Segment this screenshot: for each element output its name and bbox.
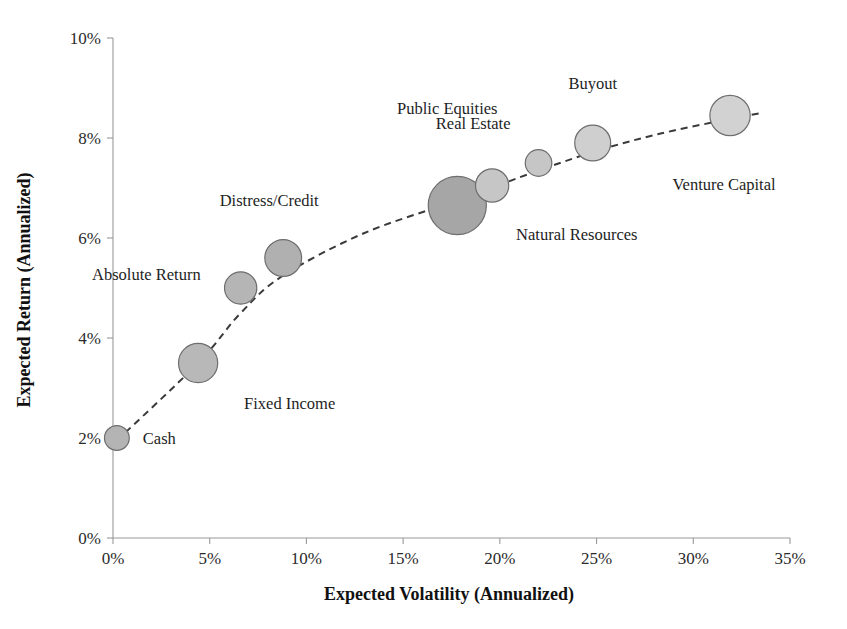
bubble-natural-resources[interactable] bbox=[475, 169, 508, 202]
x-tick-label: 15% bbox=[388, 549, 419, 568]
y-tick-label: 8% bbox=[78, 129, 101, 148]
y-tick-label: 4% bbox=[78, 329, 101, 348]
x-tick-label: 25% bbox=[581, 549, 612, 568]
bubble-cash[interactable] bbox=[104, 426, 129, 451]
bubble-distress-credit[interactable] bbox=[265, 240, 302, 277]
x-tick-label: 10% bbox=[291, 549, 322, 568]
y-tick-label: 10% bbox=[70, 29, 101, 48]
y-tick-label: 2% bbox=[78, 429, 101, 448]
bubble-label: Absolute Return bbox=[92, 265, 201, 284]
chart-canvas: 0%2%4%6%8%10% 0%5%10%15%20%25%30%35% Cas… bbox=[0, 0, 847, 629]
y-axis-title: Expected Return (Annualized) bbox=[14, 173, 35, 408]
bubble-label: Natural Resources bbox=[516, 225, 637, 244]
x-axis-title: Expected Volatility (Annualized) bbox=[324, 584, 574, 605]
bubble-label: Venture Capital bbox=[672, 175, 776, 194]
y-tick-label: 6% bbox=[78, 229, 101, 248]
bubble-label: Fixed Income bbox=[244, 394, 335, 413]
x-axis-tick-group: 0%5%10%15%20%25%30%35% bbox=[102, 538, 806, 568]
bubble-label: Distress/Credit bbox=[220, 191, 319, 210]
bubble-venture-capital[interactable] bbox=[710, 95, 750, 135]
bubble-label: Buyout bbox=[568, 74, 617, 93]
bubble-chart: 0%2%4%6%8%10% 0%5%10%15%20%25%30%35% Cas… bbox=[0, 0, 847, 629]
bubble-buyout[interactable] bbox=[575, 125, 611, 161]
bubble-fixed-income[interactable] bbox=[179, 343, 218, 382]
trend-curve bbox=[117, 113, 761, 441]
bubble-label: Real Estate bbox=[436, 114, 511, 133]
x-tick-label: 5% bbox=[198, 549, 221, 568]
x-tick-label: 20% bbox=[484, 549, 515, 568]
bubble-real-estate[interactable] bbox=[525, 150, 552, 177]
x-tick-label: 30% bbox=[678, 549, 709, 568]
bubble-group bbox=[104, 95, 750, 450]
y-tick-label: 0% bbox=[78, 529, 101, 548]
y-axis-tick-group: 0%2%4%6%8%10% bbox=[70, 29, 113, 548]
x-tick-label: 35% bbox=[774, 549, 805, 568]
bubble-absolute-return[interactable] bbox=[225, 272, 257, 304]
bubble-label: Cash bbox=[143, 429, 177, 448]
x-tick-label: 0% bbox=[102, 549, 125, 568]
